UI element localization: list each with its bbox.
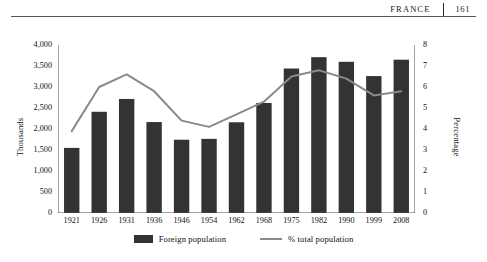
bar-1946: [174, 140, 189, 213]
legend-label-foreign-population: Foreign population: [159, 234, 226, 244]
running-head: FRANCE 161: [0, 0, 487, 22]
y-tick-label-right: 2: [423, 167, 427, 175]
bar-1968: [256, 103, 271, 213]
bar-1962: [229, 122, 244, 213]
y-axis-left-tick-labels: 05001,0001,5002,0002,5003,0003,5004,000: [10, 45, 52, 213]
y-tick-label-left: 1,000: [10, 167, 52, 175]
legend-item-bars: Foreign population: [134, 234, 226, 244]
y-tick-label-right: 6: [423, 83, 427, 91]
bar-2008: [394, 60, 409, 213]
x-axis-tick-labels: 1921192619311936194619541962196819751982…: [58, 216, 415, 230]
bar-1990: [339, 62, 354, 213]
x-tick-label-1975: 1975: [283, 216, 299, 225]
y-tick-label-right: 0: [423, 209, 427, 217]
x-tick-label-1921: 1921: [64, 216, 80, 225]
y-tick-label-left: 2,500: [10, 104, 52, 112]
bar-1926: [92, 112, 107, 213]
y-tick-label-right: 3: [423, 146, 427, 154]
x-tick-label-2008: 2008: [393, 216, 409, 225]
y-tick-label-left: 3,500: [10, 62, 52, 70]
y-tick-label-left: 3,000: [10, 83, 52, 91]
plot-area: [58, 45, 415, 213]
x-tick-label-1968: 1968: [256, 216, 272, 225]
x-tick-label-1946: 1946: [173, 216, 189, 225]
running-head-separator: [443, 3, 444, 16]
legend-bar-swatch-icon: [134, 235, 153, 243]
x-tick-label-1936: 1936: [146, 216, 162, 225]
bar-1931: [119, 99, 134, 213]
y-tick-label-right: 8: [423, 41, 427, 49]
bar-1954: [201, 139, 216, 213]
bar-1975: [284, 69, 299, 213]
running-head-inner: FRANCE 161: [390, 2, 470, 16]
x-tick-label-1990: 1990: [338, 216, 354, 225]
page: FRANCE 161 Thousands Percentage 05001,00…: [0, 0, 487, 262]
bar-1999: [366, 76, 381, 213]
chart-figure: Thousands Percentage 05001,0001,5002,000…: [0, 22, 487, 262]
legend-label-percent-total-population: % total population: [288, 234, 353, 244]
running-head-title: FRANCE: [390, 4, 430, 14]
y-tick-label-left: 2,000: [10, 125, 52, 133]
x-tick-label-1954: 1954: [201, 216, 217, 225]
y-tick-label-right: 1: [423, 188, 427, 196]
y-tick-label-right: 5: [423, 104, 427, 112]
legend-line-swatch-icon: [260, 238, 282, 240]
header-rule: [11, 16, 476, 17]
bar-1936: [146, 122, 161, 213]
bar-1921: [64, 148, 79, 213]
x-tick-label-1999: 1999: [366, 216, 382, 225]
x-tick-label-1962: 1962: [228, 216, 244, 225]
legend-item-line: % total population: [260, 234, 353, 244]
chart-svg: [58, 45, 415, 213]
y-tick-label-right: 4: [423, 125, 427, 133]
y-tick-label-left: 4,000: [10, 41, 52, 49]
y-tick-label-right: 7: [423, 62, 427, 70]
y-tick-label-left: 1,500: [10, 146, 52, 154]
bar-1982: [311, 57, 326, 213]
x-tick-label-1926: 1926: [91, 216, 107, 225]
y-axis-right-tick-labels: 012345678: [423, 45, 443, 213]
y-tick-label-left: 500: [10, 188, 52, 196]
page-number: 161: [455, 4, 470, 14]
chart-legend: Foreign population % total population: [0, 234, 487, 244]
y-axis-right-title: Percentage: [452, 97, 462, 177]
y-tick-label-left: 0: [10, 209, 52, 217]
x-tick-label-1931: 1931: [118, 216, 134, 225]
x-tick-label-1982: 1982: [311, 216, 327, 225]
